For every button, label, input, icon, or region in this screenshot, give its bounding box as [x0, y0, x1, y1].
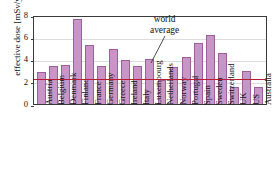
x-tick-label: Norway	[179, 77, 188, 105]
x-tick-label: Austria	[45, 79, 54, 105]
y-tick-mark	[31, 61, 35, 62]
x-label-slot: Austria	[35, 105, 47, 174]
x-tick-label: UK	[239, 92, 248, 105]
y-tick-mark	[31, 83, 35, 84]
x-label-slot: Luxembourg	[144, 105, 156, 174]
x-label-slot: Sweden	[205, 105, 217, 174]
x-tick-label: Italy	[142, 89, 151, 105]
world-average-annotation-line1: world	[150, 14, 179, 25]
x-tick-label: Ireland	[130, 80, 139, 105]
y-tick-label: 6	[17, 33, 28, 42]
x-tick-label: Switzerland	[227, 64, 236, 106]
y-tick-label: 8	[17, 11, 28, 20]
bar-chart: effective dose [mSv/y] 02468 world avera…	[0, 0, 279, 174]
x-label-slot: Germany	[95, 105, 107, 174]
x-label-slot: Australia	[253, 105, 265, 174]
x-label-slot: Switzerland	[217, 105, 229, 174]
world-average-line	[34, 79, 266, 80]
x-label-slot: Greece	[107, 105, 119, 174]
x-tick-label: Finland	[81, 78, 90, 105]
x-tick-label: US	[252, 94, 261, 105]
x-label-slot: UK	[229, 105, 241, 174]
x-tick-label: Netherlands	[166, 63, 175, 105]
y-axis-ticks: 02468	[14, 0, 28, 174]
x-tick-label: Denmark	[69, 73, 78, 105]
x-tick-label: France	[94, 81, 103, 105]
x-axis-labels: AustriaBelgiumDenmarkFinlandFranceGerman…	[33, 105, 267, 174]
x-label-slot: Belgium	[47, 105, 59, 174]
x-tick-label: Germany	[106, 73, 115, 105]
y-tick-mark	[31, 39, 35, 40]
x-label-slot: US	[241, 105, 253, 174]
bar-slot	[240, 17, 252, 104]
x-label-slot: Denmark	[59, 105, 71, 174]
x-label-slot: Finland	[71, 105, 83, 174]
x-label-slot: France	[83, 105, 95, 174]
y-tick-label: 4	[17, 55, 28, 64]
x-tick-label: Spain	[203, 85, 212, 105]
world-average-annotation-line2: average	[150, 25, 179, 36]
y-tick-label: 0	[17, 100, 28, 109]
world-average-annotation: world average	[150, 14, 179, 35]
x-tick-label: Luxembourg	[154, 60, 163, 105]
x-label-slot: Spain	[193, 105, 205, 174]
x-tick-label: Greece	[118, 80, 127, 105]
x-label-slot: Italy	[132, 105, 144, 174]
y-tick-mark	[31, 17, 35, 18]
x-label-slot: Netherlands	[156, 105, 168, 174]
x-label-slot: Ireland	[120, 105, 132, 174]
x-label-slot: Norway	[168, 105, 180, 174]
x-label-slot: Portugal	[180, 105, 192, 174]
y-tick-label: 2	[17, 78, 28, 87]
x-tick-label: Sweden	[215, 77, 224, 105]
